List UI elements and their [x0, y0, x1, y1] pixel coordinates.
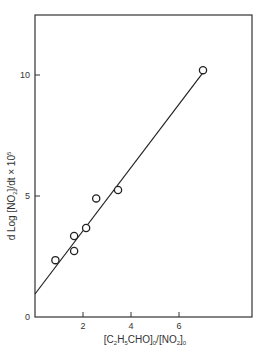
data-point — [71, 247, 78, 254]
x-axis-label: [C2H5CHO]0/[NO2]0 — [104, 334, 187, 346]
plot-frame — [35, 15, 252, 317]
x-tick-label: 4 — [128, 321, 133, 331]
y-tick-label: 10 — [20, 70, 30, 80]
data-point — [93, 195, 100, 202]
x-tick-label: 6 — [176, 321, 181, 331]
chart: 246 0510 [C2H5CHO]0/[NO2]0 d Log [NO2]/d… — [0, 0, 261, 356]
y-axis-label: d Log [NO2]/dt × 105 — [6, 151, 18, 240]
x-axis-ticks: 246 — [80, 312, 181, 331]
data-points — [52, 67, 207, 264]
data-point — [83, 224, 90, 231]
y-tick-label: 0 — [25, 312, 30, 322]
fit-line — [35, 73, 203, 294]
y-tick-label: 5 — [25, 191, 30, 201]
y-axis-ticks: 0510 — [20, 70, 40, 322]
data-point — [71, 232, 78, 239]
data-point — [114, 186, 121, 193]
x-tick-label: 2 — [80, 321, 85, 331]
data-point — [52, 257, 59, 264]
data-point — [199, 67, 206, 74]
